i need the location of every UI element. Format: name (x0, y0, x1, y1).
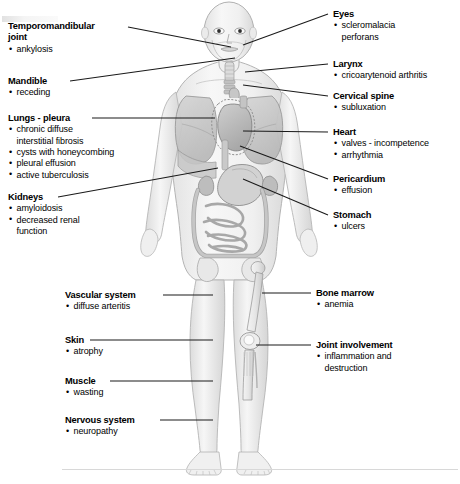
callout-bullets: effusion (333, 185, 385, 196)
callout-bullets: ankylosis (8, 44, 95, 55)
baseline-rule (62, 469, 458, 470)
callout-heading: Larynx (333, 59, 427, 70)
callout-joint-involvement: Joint involvement inflammation and destr… (316, 340, 393, 374)
callout-pericardium: Pericardium effusion (333, 174, 385, 197)
callout-bullets: valves - incompetence arrhythmia (333, 138, 429, 161)
callout-bullets: anemia (316, 299, 374, 310)
bullet: pleural effusion (8, 158, 114, 169)
callout-bullets: amyloidosis decreased renal function (8, 203, 80, 237)
leader-heart (243, 131, 328, 132)
callout-bullets: diffuse arteritis (65, 301, 136, 312)
bullet: effusion (333, 185, 385, 196)
leader-cervical-spine (243, 85, 328, 96)
callout-bullets: subluxation (333, 102, 394, 113)
bullet: receding (8, 87, 50, 98)
bullet: wasting (65, 387, 103, 398)
bullet: active tuberculosis (8, 170, 114, 181)
callout-skin: Skin atrophy (65, 335, 103, 358)
callout-muscle: Muscle wasting (65, 376, 103, 399)
callout-heading: Nervous system (65, 415, 135, 426)
leader-mandible (70, 58, 235, 81)
leader-pericardium (240, 146, 328, 179)
leader-eyes (243, 14, 328, 45)
bullet: atrophy (65, 346, 103, 357)
diagram-canvas: Temporomandibular joint ankylosis Mandib… (0, 0, 460, 484)
bullet: decreased renal function (8, 215, 80, 238)
bullet: cysts with honeycombing (8, 147, 114, 158)
leader-larynx (245, 64, 328, 72)
bullet: ankylosis (8, 44, 95, 55)
callout-heading: Cervical spine (333, 91, 394, 102)
callout-heading: Lungs - pleura (8, 113, 114, 124)
bullet: diffuse arteritis (65, 301, 136, 312)
callout-heading: Eyes (333, 9, 395, 20)
callout-vascular-system: Vascular system diffuse arteritis (65, 290, 136, 313)
callout-heading: Pericardium (333, 174, 385, 185)
bullet: amyloidosis (8, 203, 80, 214)
callout-stomach: Stomach ulcers (333, 210, 371, 233)
callout-heading: Mandible (8, 76, 50, 87)
callout-heading: Stomach (333, 210, 371, 221)
callout-bullets: cricoarytenoid arthritis (333, 70, 427, 81)
callout-kidneys: Kidneys amyloidosis decreased renal func… (8, 192, 80, 237)
callout-mandible: Mandible receding (8, 76, 50, 99)
bullet: subluxation (333, 102, 394, 113)
callout-bullets: wasting (65, 387, 103, 398)
bullet: anemia (316, 299, 374, 310)
callout-bullets: scleromalacia perforans (333, 20, 395, 43)
callout-heading: Bone marrow (316, 288, 374, 299)
callout-heading: Joint involvement (316, 340, 393, 351)
callout-temporomandibular-joint: Temporomandibular joint ankylosis (8, 21, 95, 55)
callout-bullets: inflammation and destruction (316, 351, 393, 374)
callout-heading: Temporomandibular joint (8, 21, 95, 44)
callout-bullets: chronic diffuse interstitial fibrosis cy… (8, 124, 114, 180)
leader-stomach (243, 179, 328, 215)
bullet: valves - incompetence (333, 138, 429, 149)
leader-temporomandibular-joint (128, 27, 231, 47)
bullet: neuropathy (65, 426, 135, 437)
bullet: cricoarytenoid arthritis (333, 70, 427, 81)
callout-bullets: ulcers (333, 221, 371, 232)
bullet: inflammation and destruction (316, 351, 393, 374)
bullet: scleromalacia perforans (333, 20, 395, 43)
bullet: ulcers (333, 221, 371, 232)
callout-bullets: neuropathy (65, 426, 135, 437)
callout-bullets: atrophy (65, 346, 103, 357)
callout-nervous-system: Nervous system neuropathy (65, 415, 135, 438)
callout-heading: Kidneys (8, 192, 80, 203)
callout-heading: Skin (65, 335, 103, 346)
callout-heart: Heart valves - incompetence arrhythmia (333, 127, 429, 161)
callout-heading: Heart (333, 127, 429, 138)
bullet: arrhythmia (333, 150, 429, 161)
callout-lungs-pleura: Lungs - pleura chronic diffuse interstit… (8, 113, 114, 181)
callout-eyes: Eyes scleromalacia perforans (333, 9, 395, 43)
callout-bone-marrow: Bone marrow anemia (316, 288, 374, 311)
callout-heading: Vascular system (65, 290, 136, 301)
callout-larynx: Larynx cricoarytenoid arthritis (333, 59, 427, 82)
bullet: chronic diffuse interstitial fibrosis (8, 124, 114, 147)
callout-cervical-spine: Cervical spine subluxation (333, 91, 394, 114)
callout-bullets: receding (8, 87, 50, 98)
callout-heading: Muscle (65, 376, 103, 387)
